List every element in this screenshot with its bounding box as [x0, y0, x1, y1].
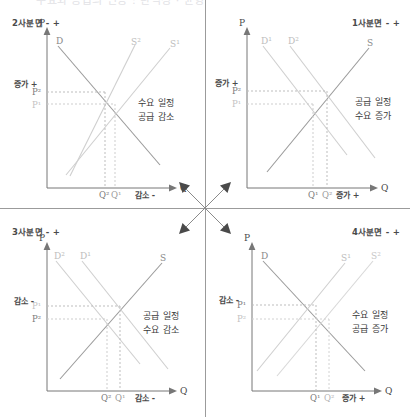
q2-curve-D-label: D [56, 36, 63, 46]
q1-curve-D1-label: D¹ [261, 36, 272, 46]
q2-axis-y-label: P [39, 18, 45, 28]
q2-note-line1: 수요 일정 [138, 96, 174, 110]
q1-qty-direction: 증가 + [336, 189, 360, 200]
q2-qty-label-1: Q¹ [111, 190, 121, 200]
q3-curve-D1-label: D¹ [80, 251, 91, 261]
q1-curve-D2-label: D² [288, 36, 299, 46]
q3-note-line2: 수요 감소 [143, 323, 179, 337]
q2-price-label-1: P¹ [32, 100, 41, 110]
q1-qty-label-1: Q¹ [308, 190, 318, 200]
q1-price-direction: 증가 + [215, 77, 239, 88]
q4-note-line2: 공급 증가 [352, 322, 388, 336]
q2-note-line2: 공급 감소 [138, 110, 174, 124]
q4-price-direction: 감소 - [219, 294, 239, 305]
q1-note-line1: 공급 일정 [355, 95, 391, 109]
q2-price-direction: 증가 + [14, 78, 38, 89]
q4-qty-label-2: Q² [324, 393, 334, 403]
q2-qty-direction: 감소 - [135, 189, 155, 200]
q3-qty-direction: 감소 - [135, 392, 155, 403]
q3-qty-label-2: Q² [101, 393, 111, 403]
q4-curve-S1-label: S¹ [341, 253, 351, 263]
q4-axis-x-label: Q [385, 386, 392, 396]
q3-qty-label-1: Q¹ [115, 393, 125, 403]
q3-axis-x-label: Q [180, 386, 187, 396]
q1-price-label-1: P¹ [232, 99, 241, 109]
q3-note-line1: 공급 일정 [143, 309, 179, 323]
q2-curve-S2-label: S² [131, 37, 141, 47]
q4-price-label-2: P² [237, 314, 246, 324]
q2-curve-S1-label: S¹ [170, 39, 180, 49]
q4-curve-D-label: D [261, 251, 268, 261]
four-way-arrow-cross [160, 163, 250, 253]
q1-note-line2: 수요 증가 [355, 109, 391, 123]
q1-curve-S-label: S [367, 38, 373, 48]
q4-qty-label-1: Q¹ [310, 393, 320, 403]
q1-axis-y-label: P [239, 18, 245, 28]
q3-price-label-2: P² [32, 314, 41, 324]
q1-qty-label-2: Q² [322, 190, 332, 200]
q3-axis-y-label: P [39, 233, 45, 243]
quadrant-diagram-page: 수요와 공급의 변동 : 탄력성 · 균형 2사분면 - + P Q D S¹ … [0, 0, 410, 417]
q1-axis-x-label: Q [381, 183, 388, 193]
q4-qty-direction: 증가 + [342, 392, 366, 403]
q2-qty-label-2: Q² [99, 190, 109, 200]
q3-curve-S-label: S [160, 253, 166, 263]
q4-curve-S2-label: S² [371, 251, 381, 261]
q4-note-line1: 수요 일정 [352, 308, 388, 322]
q3-price-direction: 감소 - [14, 295, 34, 306]
q3-curve-D2-label: D² [54, 251, 65, 261]
